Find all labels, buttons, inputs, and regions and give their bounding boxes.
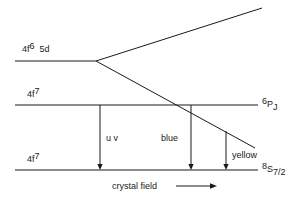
transition-arrowhead-uv [97,164,102,170]
term-8s72-subscript: 7/2 [273,167,286,177]
term-label-6pj: 6PJ [262,96,278,112]
level-label-middle-4f7: 4f7 [27,86,40,100]
label-mid-4f7-superscript: 7 [35,86,40,96]
term-label-8s72: 8S7/2 [262,161,286,177]
level-label-4f6-5d: 4f6 5d [22,41,50,55]
transition-label-blue: blue [161,133,178,143]
axis-label-crystal-field: crystal field [112,181,157,191]
crystal-field-axis-arrowhead [210,183,217,189]
crystal-field-branch-upper [96,8,262,61]
transition-arrowhead-yellow [223,164,228,170]
transition-arrows-group: u vblueyellow [97,105,257,170]
level-label-ground-4f7: 4f7 [27,151,40,165]
label-4f6-5d-tail: 5d [40,44,50,54]
diagram-canvas: 4f6 5d 4f7 4f7 6PJ 8S7/2 u vblueyellow c… [0,0,301,199]
transition-label-yellow: yellow [232,150,258,160]
term-6pj-subscript: J [273,102,278,112]
transition-label-uv: u v [106,133,119,143]
energy-level-diagram: 4f6 5d 4f7 4f7 6PJ 8S7/2 u vblueyellow c… [0,0,301,199]
label-ground-4f7-superscript: 7 [35,151,40,161]
transition-arrowhead-blue [188,164,193,170]
